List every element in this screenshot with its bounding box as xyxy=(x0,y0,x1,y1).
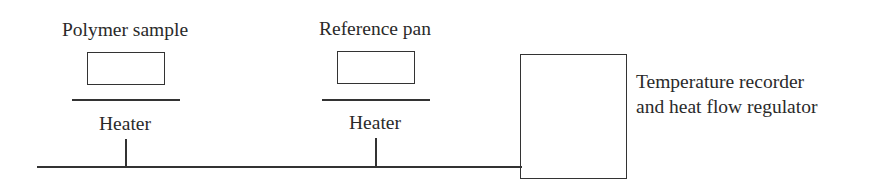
polymer-sample-label: Polymer sample xyxy=(62,20,188,40)
signal-bus-line xyxy=(37,166,522,168)
reference-heater-plate xyxy=(322,99,430,101)
sample-heater-label: Heater xyxy=(99,114,151,134)
reference-pan-box xyxy=(337,51,415,84)
sample-heater-plate xyxy=(72,99,180,101)
controller-label-line2: and heat flow regulator xyxy=(636,94,817,119)
polymer-sample-box xyxy=(87,52,165,85)
controller-box xyxy=(520,54,627,179)
reference-pan-label: Reference pan xyxy=(319,19,431,39)
controller-label: Temperature recorder and heat flow regul… xyxy=(636,69,817,119)
reference-heater-label: Heater xyxy=(349,113,401,133)
sample-heater-connector xyxy=(125,139,127,167)
reference-heater-connector xyxy=(375,138,377,167)
controller-label-line1: Temperature recorder xyxy=(636,69,817,94)
